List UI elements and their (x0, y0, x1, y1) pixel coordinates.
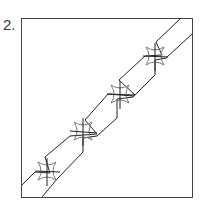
diagram-canvas (0, 0, 206, 210)
band-upper-line (22, 18, 181, 185)
band-lower-line (42, 34, 192, 197)
star-markers (38, 47, 164, 180)
